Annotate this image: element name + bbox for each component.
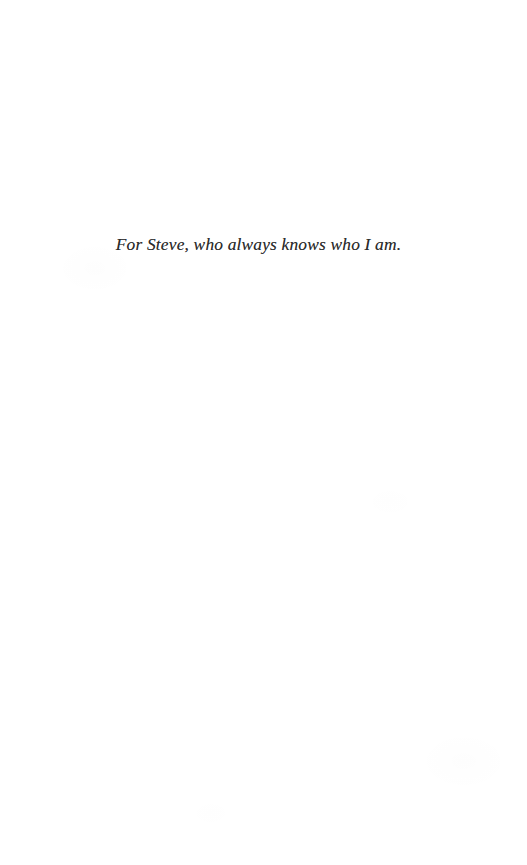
- scanned-book-page: For Steve, who always knows who I am.: [0, 0, 527, 865]
- dedication-text: For Steve, who always knows who I am.: [116, 233, 401, 255]
- dedication-block: For Steve, who always knows who I am.: [0, 216, 527, 273]
